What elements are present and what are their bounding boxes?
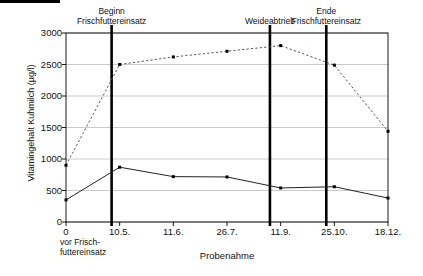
- data-point-marker: [279, 186, 282, 189]
- event-annotation-line2: Frischfuttereinsatz: [266, 17, 386, 27]
- data-point-marker: [65, 198, 68, 201]
- series-line-dashed-series: [66, 46, 388, 166]
- event-annotation-line2: Frischfuttereinsatz: [52, 17, 172, 27]
- plot-svg: [0, 0, 423, 276]
- data-point-marker: [387, 130, 390, 133]
- data-point-marker: [65, 164, 68, 167]
- data-point-marker: [279, 44, 282, 47]
- chart-container: Vitamingehalt Kuhmilch (µg/l) 0500100015…: [0, 0, 423, 276]
- data-point-marker: [333, 185, 336, 188]
- data-point-marker: [172, 175, 175, 178]
- event-annotation-beginn: BeginnFrischfuttereinsatz: [52, 7, 172, 26]
- data-point-marker: [118, 166, 121, 169]
- data-point-marker: [172, 55, 175, 58]
- event-annotation-ende: EndeFrischfuttereinsatz: [266, 7, 386, 26]
- data-point-marker: [226, 50, 229, 53]
- data-point-marker: [387, 197, 390, 200]
- data-point-marker: [333, 64, 336, 67]
- data-point-marker: [118, 63, 121, 66]
- data-series: [65, 44, 390, 201]
- series-line-solid-series: [66, 167, 388, 200]
- event-marker-lines: [112, 25, 327, 226]
- data-point-marker: [226, 175, 229, 178]
- x-axis-title: Probenahme: [66, 250, 388, 261]
- gridlines: [66, 33, 388, 222]
